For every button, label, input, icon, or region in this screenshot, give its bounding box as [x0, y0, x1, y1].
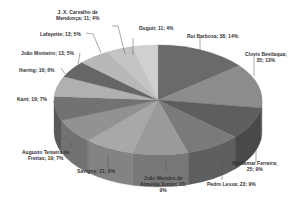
pie-top [54, 45, 262, 155]
label-line: Freitas; 19; 7% [22, 155, 69, 161]
label-rui-barbosa: Rui Barbosa; 38; 14% [187, 33, 238, 39]
label-line: 25; 9% [232, 166, 277, 172]
label-ihering: Ihering; 16; 6% [19, 67, 55, 73]
label-lafayette: Lafayette; 13; 5% [40, 31, 81, 37]
label-joao-mendes: João Mendes de Almeida Junior; 23; 9% [140, 175, 186, 193]
label-line: 9% [140, 187, 186, 193]
label-duguit: Duguit; 11; 4% [139, 25, 173, 31]
label-pedro-lessa: Pedro Lessa; 23; 9% [207, 181, 256, 187]
label-savigny: Savigny; 21; 8% [77, 168, 115, 174]
label-clovis: Clovis Bevilaqua; 35; 13% [245, 51, 287, 63]
label-joao-monteiro: João Monteiro; 13; 5% [21, 50, 74, 56]
label-carvalho: J. X. Carvalho de Mendonça; 11; 4% [56, 9, 99, 21]
label-waldemar: Waldemar Ferreira; 25; 9% [232, 160, 277, 172]
label-kant: Kant; 19; 7% [17, 96, 47, 102]
label-line: Mendonça; 11; 4% [56, 15, 99, 21]
label-line: 35; 13% [245, 57, 287, 63]
label-augusto: Augusto Teixeira de Freitas; 19; 7% [22, 149, 69, 161]
